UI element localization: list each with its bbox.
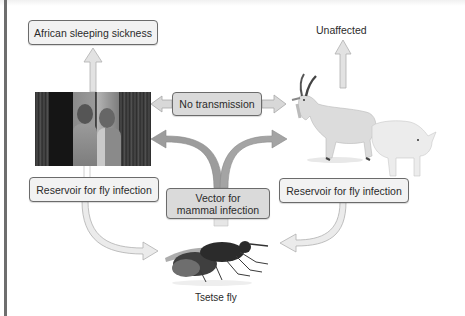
disease-box: African sleeping sickness: [28, 20, 158, 45]
arrow-left-reservoir-to-fly: [82, 201, 158, 260]
arrow-vector-to-animals: [220, 130, 287, 188]
child-head: [77, 104, 93, 124]
reservoir-right-label: Reservoir for fly infection: [286, 185, 402, 197]
arrow-vector-to-humans: [151, 130, 222, 188]
arrow-no-transmission-right: [262, 95, 286, 113]
child-head: [99, 108, 115, 128]
arrow-fly-to-vector-stem: [214, 218, 228, 226]
arrow-left-photo-stem: [84, 166, 90, 177]
pig-photo: [372, 121, 436, 176]
tsetse-fly-label: Tsetse fly: [195, 292, 237, 303]
no-transmission-box: No transmission: [172, 92, 262, 116]
disease-label: African sleeping sickness: [34, 27, 152, 39]
vector-box: Vector for mammal infection: [166, 188, 270, 219]
vector-label-line1: Vector for: [196, 192, 241, 204]
child-body: [73, 124, 97, 166]
arrow-up-to-disease: [84, 48, 102, 92]
arrow-up-to-unaffected: [335, 40, 351, 88]
vector-label-line2: mammal infection: [177, 204, 259, 216]
child-body: [97, 128, 121, 166]
goat-photo: [292, 74, 376, 163]
unaffected-label: Unaffected: [316, 24, 367, 36]
arrow-right-reservoir-to-fly: [280, 202, 346, 252]
tsetse-fly-photo: [165, 241, 268, 286]
photo-shadow: [49, 92, 73, 166]
children-photo: [35, 92, 151, 166]
no-transmission-label: No transmission: [179, 98, 254, 110]
reservoir-left-box: Reservoir for fly infection: [29, 177, 159, 202]
arrow-no-transmission-left: [151, 96, 172, 112]
reservoir-right-box: Reservoir for fly infection: [279, 178, 409, 203]
reservoir-left-label: Reservoir for fly infection: [36, 184, 152, 196]
